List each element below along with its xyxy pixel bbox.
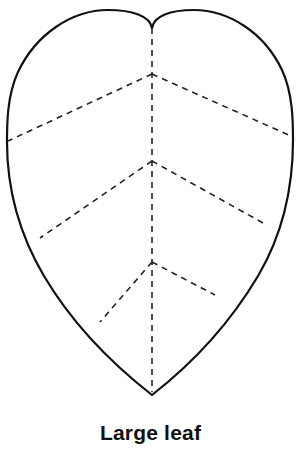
figure-caption: Large leaf: [0, 420, 301, 446]
leaf-template-sheet: Large leaf cutting template Large leaf: [0, 0, 301, 454]
leaf-diagram: Large leaf cutting template: [0, 0, 301, 410]
leaf-outline-path: [7, 10, 293, 395]
